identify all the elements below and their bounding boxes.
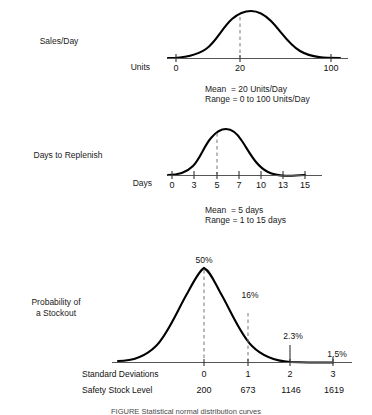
chart3-percent-label-50: 50%	[195, 255, 212, 265]
chart3-row-label-safety-stock-level: Safety Stock Level	[82, 385, 152, 395]
chart3-safety-stock-value-1: 673	[240, 385, 255, 395]
chart3-sd-value-2: 2	[287, 369, 292, 379]
chart3-sd-value-0: 0	[201, 369, 206, 379]
chart3-safety-stock-value-3: 1619	[324, 385, 344, 395]
figure-caption: FIGURE Statistical normal distribution c…	[0, 407, 372, 415]
chart3-plot	[0, 0, 372, 415]
chart3-sd-value-3: 3	[330, 369, 335, 379]
chart3-normal-curve	[118, 268, 333, 363]
chart3-safety-stock-value-0: 200	[196, 385, 211, 395]
chart3-percent-label-16: 16%	[241, 290, 258, 300]
chart3-percent-label-1-5: 1.5%	[327, 349, 346, 359]
chart3-row-label-standard-deviations: Standard Deviations	[82, 369, 159, 379]
chart3-sd-value-1: 1	[245, 369, 250, 379]
chart3-percent-label-2-3: 2.3%	[283, 331, 302, 341]
chart3-safety-stock-value-2: 1146	[281, 385, 300, 395]
